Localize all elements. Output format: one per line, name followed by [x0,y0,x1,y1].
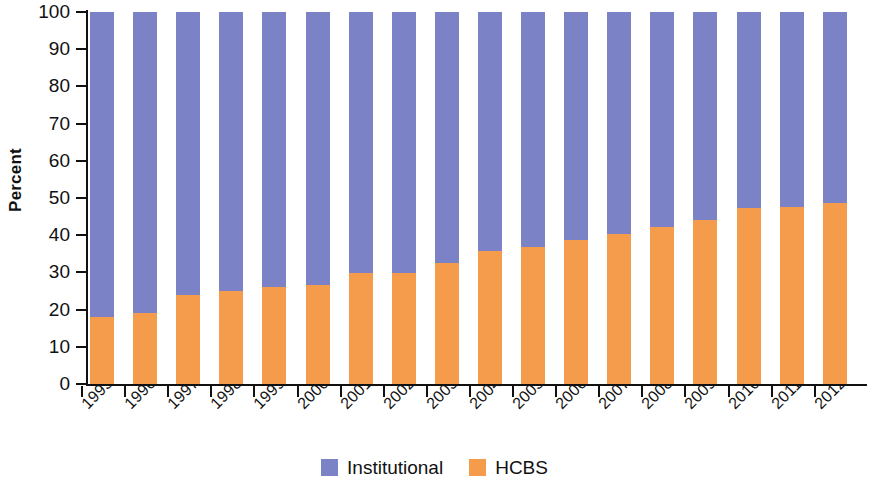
y-axis-tick-label: 70 [6,114,70,133]
bar-group[interactable] [219,12,243,384]
bar-group[interactable] [392,12,416,384]
y-axis-tick [76,11,86,13]
bar-segment-institutional[interactable] [521,12,545,247]
bar-segment-institutional[interactable] [392,12,416,273]
bar-segment-hcbs[interactable] [219,291,243,384]
legend-swatch-icon [321,459,338,476]
bar-segment-institutional[interactable] [176,12,200,295]
bar-group[interactable] [693,12,717,384]
bar-segment-institutional[interactable] [693,12,717,220]
y-axis-tick-label: 100 [6,2,70,21]
stacked-bar-chart: Percent 0102030405060708090100 199519961… [0,0,869,487]
bar-segment-institutional[interactable] [780,12,804,207]
legend-item[interactable]: Institutional [321,458,443,477]
bar-segment-institutional[interactable] [90,12,114,317]
bar-group[interactable] [564,12,588,384]
bar-group[interactable] [349,12,373,384]
bar-group[interactable] [90,12,114,384]
bar-segment-institutional[interactable] [435,12,459,263]
bar-segment-hcbs[interactable] [780,207,804,384]
legend-label: HCBS [495,458,548,477]
bar-segment-hcbs[interactable] [306,285,330,384]
legend-label: Institutional [347,458,443,477]
chart-legend: InstitutionalHCBS [0,458,869,477]
y-axis-tick [76,234,86,236]
bar-group[interactable] [607,12,631,384]
bar-segment-hcbs[interactable] [176,295,200,384]
bar-segment-hcbs[interactable] [133,313,157,384]
bar-segment-institutional[interactable] [262,12,286,287]
bar-group[interactable] [737,12,761,384]
legend-swatch-icon [469,459,486,476]
y-axis-tick [76,48,86,50]
bar-segment-institutional[interactable] [737,12,761,208]
y-axis-tick [76,123,86,125]
bar-segment-hcbs[interactable] [823,203,847,384]
y-axis-tick-label: 10 [6,337,70,356]
bar-group[interactable] [780,12,804,384]
y-axis-tick-label: 90 [6,39,70,58]
y-axis-tick-label: 30 [6,262,70,281]
y-axis-tick-label: 40 [6,225,70,244]
y-axis-tick [76,346,86,348]
bar-segment-institutional[interactable] [219,12,243,291]
bar-group[interactable] [478,12,502,384]
bar-segment-institutional[interactable] [650,12,674,227]
bar-group[interactable] [823,12,847,384]
y-axis-tick [76,383,86,385]
bar-segment-hcbs[interactable] [737,208,761,384]
legend-item[interactable]: HCBS [469,458,548,477]
bar-group[interactable] [176,12,200,384]
y-axis-tick [76,85,86,87]
bar-segment-hcbs[interactable] [349,273,373,384]
bar-segment-hcbs[interactable] [564,240,588,384]
y-axis-title: Percent [6,130,26,230]
bar-group[interactable] [133,12,157,384]
y-axis-tick-label: 80 [6,76,70,95]
y-axis-tick [76,271,86,273]
bar-segment-hcbs[interactable] [693,220,717,384]
bar-segment-institutional[interactable] [306,12,330,285]
bar-group[interactable] [650,12,674,384]
bar-segment-institutional[interactable] [133,12,157,313]
bar-segment-institutional[interactable] [823,12,847,203]
bar-group[interactable] [435,12,459,384]
y-axis-tick-label: 60 [6,151,70,170]
bar-segment-institutional[interactable] [607,12,631,234]
bar-segment-hcbs[interactable] [90,317,114,384]
bar-segment-hcbs[interactable] [478,251,502,384]
bar-segment-institutional[interactable] [564,12,588,240]
plot-area [88,12,866,384]
y-axis-tick [76,160,86,162]
bar-segment-hcbs[interactable] [650,227,674,384]
y-axis-tick-label: 20 [6,300,70,319]
y-axis-tick [76,197,86,199]
bar-segment-hcbs[interactable] [607,234,631,384]
y-axis-tick-label: 50 [6,188,70,207]
bar-segment-hcbs[interactable] [262,287,286,384]
bar-group[interactable] [306,12,330,384]
bar-group[interactable] [262,12,286,384]
bar-segment-institutional[interactable] [349,12,373,273]
bar-segment-institutional[interactable] [478,12,502,251]
y-axis-tick [76,309,86,311]
bar-segment-hcbs[interactable] [435,263,459,384]
bar-segment-hcbs[interactable] [392,273,416,384]
y-axis-tick-label: 0 [6,374,70,393]
bar-segment-hcbs[interactable] [521,247,545,384]
bar-group[interactable] [521,12,545,384]
